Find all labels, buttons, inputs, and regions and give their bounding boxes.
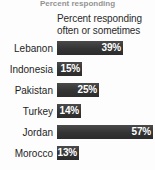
chart-header: Percent responding often or sometimes: [57, 13, 153, 36]
category-label: Lebanon: [0, 42, 53, 55]
bar-row: Turkey14%: [0, 103, 155, 124]
bar-track: 15%: [57, 62, 153, 76]
bar-track: 57%: [57, 125, 153, 139]
bar: 14%: [57, 104, 81, 118]
bar-value-label: 25%: [78, 83, 97, 97]
bar: 13%: [57, 146, 79, 160]
category-label: Pakistan: [0, 84, 53, 97]
bar-rows: Lebanon39%Indonesia15%Pakistan25%Turkey1…: [0, 40, 155, 166]
bar-track: 13%: [57, 146, 153, 160]
bar: 57%: [57, 125, 153, 139]
bar-value-label: 13%: [58, 146, 77, 160]
header-line-2: often or sometimes: [57, 25, 153, 37]
bar-row: Morocco13%: [0, 145, 155, 166]
bar-value-label: 15%: [61, 62, 80, 76]
bar-track: 25%: [57, 83, 153, 97]
category-label: Turkey: [0, 105, 53, 118]
category-label: Jordan: [0, 126, 53, 139]
bar-chart-figure: Percent responding Percent responding of…: [0, 0, 155, 170]
bar: 15%: [57, 62, 82, 76]
header-line-1: Percent responding: [57, 13, 153, 25]
bar-row: Lebanon39%: [0, 40, 155, 61]
bar: 25%: [57, 83, 99, 97]
bar-row: Jordan57%: [0, 124, 155, 145]
bar-value-label: 39%: [102, 41, 121, 55]
bar-row: Indonesia15%: [0, 61, 155, 82]
category-label: Morocco: [0, 147, 53, 160]
bar: 39%: [57, 41, 123, 55]
bar-row: Pakistan25%: [0, 82, 155, 103]
category-label: Indonesia: [0, 63, 53, 76]
bar-value-label: 57%: [132, 125, 151, 139]
bar-track: 14%: [57, 104, 153, 118]
bar-value-label: 14%: [60, 104, 79, 118]
bar-track: 39%: [57, 41, 153, 55]
cropped-title-sliver: Percent responding: [0, 0, 155, 8]
